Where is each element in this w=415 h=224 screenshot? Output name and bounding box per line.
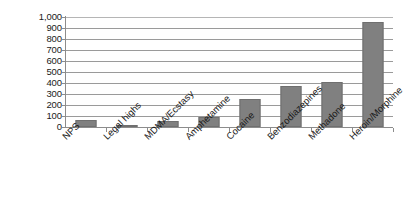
y-tick-label: 900 (2, 23, 62, 33)
y-tick-label: 700 (2, 45, 62, 55)
y-tick-label: 600 (2, 56, 62, 66)
y-axis: 1,000 900 800 700 600 500 400 300 200 10… (0, 0, 62, 224)
bar-slot (65, 17, 106, 127)
y-tick-label: 800 (2, 34, 62, 44)
y-tick-label: 100 (2, 111, 62, 121)
y-tick-label: 0 (2, 122, 62, 132)
x-tick-mark (393, 128, 394, 132)
y-tick-label: 400 (2, 78, 62, 88)
y-tick-label: 200 (2, 100, 62, 110)
y-tick-label: 500 (2, 67, 62, 77)
bar-chart: 1,000 900 800 700 600 500 400 300 200 10… (0, 0, 415, 224)
y-tick-label: 1,000 (2, 12, 62, 22)
y-tick-label: 300 (2, 89, 62, 99)
